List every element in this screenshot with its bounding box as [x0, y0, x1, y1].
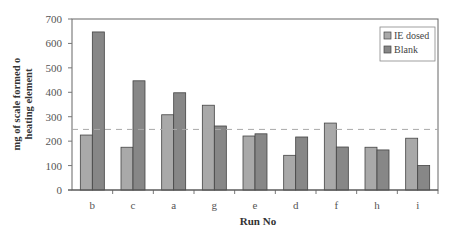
bar-ie-dosed-e: [243, 136, 255, 190]
y-axis-label-line-2: heating element: [23, 19, 35, 189]
bar-ie-dosed-d: [284, 155, 296, 190]
x-tick-label: d: [293, 199, 299, 211]
legend-swatch-1: [384, 46, 391, 53]
y-tick-label: 700: [46, 13, 63, 25]
x-tick-label: g: [212, 199, 218, 211]
bar-blank-c: [133, 81, 145, 190]
x-axis-label: Run No: [0, 215, 456, 227]
x-tick-label: i: [416, 199, 419, 211]
bar-blank-i: [418, 166, 430, 190]
bar-blank-a: [174, 93, 186, 190]
bar-ie-dosed-g: [202, 105, 214, 190]
bar-ie-dosed-i: [406, 138, 418, 190]
y-axis-label: mg of scale formed o heating element: [11, 19, 35, 189]
bar-blank-f: [336, 147, 348, 190]
bar-blank-d: [296, 137, 308, 190]
y-tick-label: 400: [46, 86, 63, 98]
bar-blank-g: [214, 126, 226, 190]
y-tick-label: 500: [46, 62, 63, 74]
x-tick-label: c: [131, 199, 136, 211]
y-tick-label: 0: [57, 184, 63, 196]
bar-ie-dosed-b: [80, 135, 92, 190]
bar-blank-h: [377, 150, 389, 190]
legend-swatch-0: [384, 32, 391, 39]
y-axis-label-line-1: mg of scale formed o: [11, 19, 23, 189]
bar-ie-dosed-f: [324, 123, 336, 190]
x-tick-label: h: [374, 199, 380, 211]
y-tick-label: 300: [46, 111, 63, 123]
y-tick-label: 100: [46, 160, 63, 172]
bar-ie-dosed-h: [365, 147, 377, 190]
x-tick-label: a: [171, 199, 176, 211]
legend-label-0: IE dosed: [394, 30, 429, 41]
bar-ie-dosed-a: [162, 115, 174, 190]
bar-blank-e: [255, 134, 267, 190]
y-tick-label: 600: [46, 37, 63, 49]
chart-canvas: 0100200300400500600700bcagedfhiIE dosedB…: [0, 0, 456, 239]
x-tick-label: b: [90, 199, 96, 211]
legend-label-1: Blank: [394, 44, 418, 55]
x-tick-label: e: [253, 199, 258, 211]
y-tick-label: 200: [46, 135, 63, 147]
bar-ie-dosed-c: [121, 147, 133, 190]
bar-blank-b: [92, 32, 104, 190]
bar-chart: 0100200300400500600700bcagedfhiIE dosedB…: [0, 0, 456, 239]
x-tick-label: f: [334, 199, 338, 211]
